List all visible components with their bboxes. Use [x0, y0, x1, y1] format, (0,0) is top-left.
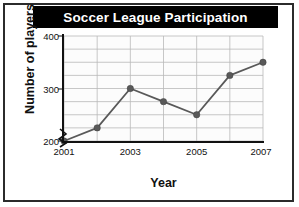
data-point	[127, 85, 133, 91]
x-tick-label-2007: 2007	[250, 146, 271, 157]
y-axis-title: Number of players	[23, 3, 37, 115]
data-point	[260, 59, 266, 65]
x-tick-label-2003: 2003	[120, 146, 141, 157]
chart-title-bar: Soccer League Participation	[33, 6, 278, 28]
chart-title: Soccer League Participation	[63, 10, 247, 25]
data-point	[94, 125, 100, 131]
data-point	[227, 72, 233, 78]
x-axis-title: Year	[64, 176, 263, 190]
y-tick-label-200: 200	[43, 136, 59, 147]
data-series-soccer-participation	[64, 36, 263, 141]
x-tick-label-2001: 2001	[53, 146, 74, 157]
chart-figure: Soccer League Participation	[0, 0, 299, 207]
data-point	[160, 98, 166, 104]
y-tick-mark-200	[58, 141, 63, 142]
y-tick-mark-300	[58, 88, 63, 89]
plot-area	[64, 36, 263, 141]
y-tick-label-400: 400	[43, 31, 59, 42]
x-tick-label-2005: 2005	[186, 146, 207, 157]
y-tick-label-300: 300	[43, 83, 59, 94]
y-tick-mark-400	[58, 36, 63, 37]
x-axis-line	[62, 141, 264, 143]
data-point	[193, 112, 199, 118]
